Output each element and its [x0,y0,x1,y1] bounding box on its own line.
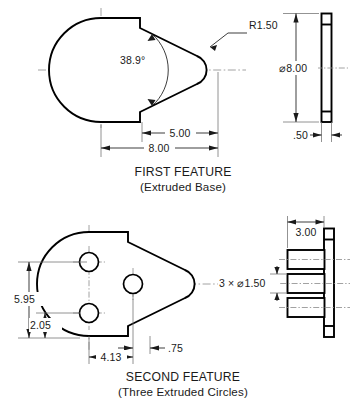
technical-drawing-sheet: 38.9° R1.50 5.00 8.00 [0,0,359,418]
dim-hole-dia-label: 3 × ⌀1.50 [219,277,266,289]
drawing-canvas: 38.9° R1.50 5.00 8.00 [0,0,359,418]
dim-diameter-arrow-top [293,14,298,23]
first-feature-profile-outline [49,18,207,122]
dim-075-label: .75 [168,342,183,354]
dim-diameter-label: ⌀8.00 [279,62,307,74]
dim-205-label: 2.05 [30,319,51,331]
dim-thickness-label: .50 [293,129,308,141]
second-feature-caption-subtitle: (Three Extruded Circles) [118,385,248,398]
dim-8-label: 8.00 [148,142,169,154]
first-feature-caption-subtitle: (Extruded Base) [140,180,226,193]
dim-5-label: 5.00 [169,127,190,139]
dim-hole-dia-arrow-bottom [274,293,279,300]
dim-300-arrow-left [288,219,297,224]
first-feature-caption-title: FIRST FEATURE [135,165,232,179]
hole-lower-left [80,304,99,323]
dim-thickness-arrow-left [313,132,322,137]
dim-hole-dia-arrow-top [274,267,279,274]
dim-595-label: 5.95 [14,293,35,305]
dim-413-label: 4.13 [100,351,121,363]
dim-5-arrow-right [209,130,218,135]
dim-075-arrow-right [150,345,159,350]
dim-5-arrow-left [142,130,151,135]
radius-label: R1.50 [249,19,278,31]
second-feature-caption-title: SECOND FEATURE [126,370,240,384]
second-feature-front-view: 5.95 2.05 .75 4.13 [12,225,246,364]
dim-8-arrow-left [101,145,110,150]
second-feature-caption: SECOND FEATURE (Three Extruded Circles) [118,370,248,398]
hole-center [124,275,143,294]
first-feature-caption: FIRST FEATURE (Extruded Base) [135,165,232,193]
dim-300-label: 3.00 [295,226,316,238]
dim-8-arrow-right [209,145,218,150]
first-feature-front-view: 38.9° R1.50 5.00 8.00 [38,8,278,157]
second-feature-side-view: 3.00 3 × ⌀1.50 [218,216,350,337]
dim-075-arrow-left [124,345,133,350]
dim-thickness-arrow-right [332,132,341,137]
radius-leader-line [210,33,228,47]
first-feature-side-view: ⌀8.00 .50 [278,14,348,143]
dim-diameter-arrow-bottom [293,113,298,122]
dim-300-arrow-right [316,219,325,224]
dim-595-arrow-top [26,262,31,271]
taper-angle-label: 38.9° [120,54,145,66]
side-view-2-plate-outline [324,229,334,338]
